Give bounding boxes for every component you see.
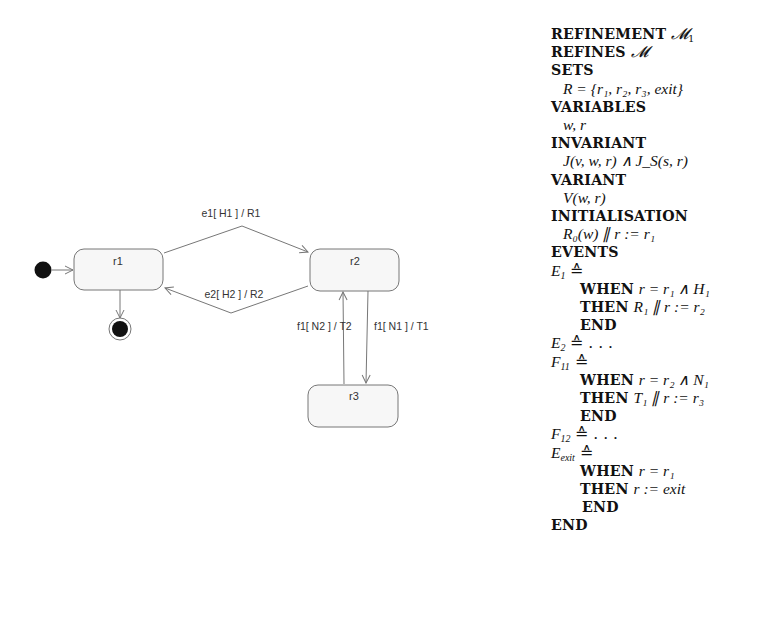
guard: r = r₁: [639, 462, 675, 479]
guard: r = r₁ ∧ H₁: [639, 280, 710, 297]
event-e1-then: THEN R₁ ∥ r := r₂: [551, 298, 776, 316]
initialisation-value: R₀(w) ∥ r := r₁: [551, 225, 776, 243]
transition-f1-n1-label: f1[ N1 ] / T1: [374, 320, 429, 332]
state-r1: r1: [74, 249, 163, 290]
event-def-symbol: ≙: [575, 353, 588, 371]
transition-e2-label: e2[ H2 ] / R2: [205, 288, 264, 300]
state-r2-label: r2: [350, 255, 360, 267]
end-keyword: END: [580, 408, 617, 424]
transition-e1: [164, 226, 308, 253]
invariant-keyword: INVARIANT: [551, 135, 646, 151]
event-def-symbol: ≙ . . .: [570, 334, 613, 352]
guard: r = r₂ ∧ N₁: [639, 371, 709, 388]
final-node: [109, 318, 131, 340]
event-def-symbol: ≙ . . .: [575, 425, 618, 443]
event-def-symbol: ≙: [580, 444, 593, 462]
invariant-heading: INVARIANT: [551, 134, 776, 152]
when-keyword: WHEN: [580, 463, 634, 479]
event-exit-end: END: [551, 498, 776, 516]
events-keyword: EVENTS: [551, 244, 619, 260]
action: T₁ ∥ r := r₃: [633, 389, 704, 406]
then-keyword: THEN: [580, 299, 629, 315]
refinement-subscript: 1: [688, 33, 694, 44]
sets-heading: SETS: [551, 61, 776, 79]
when-keyword: WHEN: [580, 281, 634, 297]
refines-keyword: REFINES: [551, 44, 626, 60]
sets-keyword: SETS: [551, 62, 594, 78]
state-r1-label: r1: [113, 255, 123, 267]
variables-heading: VARIABLES: [551, 98, 776, 116]
refines-name: 𝓜: [631, 43, 648, 60]
event-b-refinement-spec: REFINEMENT 𝓜1 REFINES 𝓜 SETS R = {r₁, r₂…: [551, 25, 776, 535]
event-e1-when: WHEN r = r₁ ∧ H₁: [551, 280, 776, 298]
invariant-value: J(v, w, r) ∧ J_S(s, r): [551, 152, 776, 170]
event-f11-when: WHEN r = r₂ ∧ N₁: [551, 371, 776, 389]
event-f11-then: THEN T₁ ∥ r := r₃: [551, 389, 776, 407]
action: R₁ ∥ r := r₂: [633, 298, 704, 315]
event-exit-when: WHEN r = r₁: [551, 462, 776, 480]
initial-node: [35, 262, 52, 279]
state-r2: r2: [310, 249, 399, 291]
refines-line: REFINES 𝓜: [551, 43, 776, 61]
end-keyword: END: [551, 517, 588, 533]
action: r := exit: [633, 480, 685, 497]
event-e1-end: END: [551, 316, 776, 334]
end-keyword: END: [582, 499, 619, 515]
then-keyword: THEN: [580, 481, 629, 497]
event-subscript: 1: [560, 270, 565, 281]
state-machine-diagram: r1 r2 r3 e1[ H1 ] / R1 e2[ H2 ] / R2 f1[…: [0, 0, 470, 641]
event-f12-header: F12 ≙ . . .: [551, 425, 776, 443]
refinement-line: REFINEMENT 𝓜1: [551, 25, 776, 43]
variables-keyword: VARIABLES: [551, 99, 646, 115]
event-e1-header: E1 ≙: [551, 262, 776, 280]
event-f11-header: F11 ≙: [551, 353, 776, 371]
events-heading: EVENTS: [551, 243, 776, 261]
transition-f1-n1: [366, 291, 368, 383]
variant-keyword: VARIANT: [551, 172, 626, 188]
then-keyword: THEN: [580, 390, 629, 406]
transition-e1-label: e1[ H1 ] / R1: [202, 207, 261, 219]
transition-f1-n2-label: f1[ N2 ] / T2: [297, 320, 352, 332]
when-keyword: WHEN: [580, 372, 634, 388]
variant-heading: VARIANT: [551, 171, 776, 189]
event-exit-header: Eexit ≙: [551, 444, 776, 462]
state-r3: r3: [308, 385, 398, 427]
event-exit-then: THEN r := exit: [551, 480, 776, 498]
state-r3-label: r3: [349, 390, 359, 402]
event-subscript: 12: [560, 433, 570, 444]
initialisation-heading: INITIALISATION: [551, 207, 776, 225]
transition-f1-n2: [343, 292, 344, 384]
event-subscript: 11: [560, 361, 569, 372]
event-subscript: 2: [560, 342, 565, 353]
spec-end: END: [551, 516, 776, 534]
event-e2-header: E2 ≙ . . .: [551, 334, 776, 352]
initialisation-keyword: INITIALISATION: [551, 208, 688, 224]
end-keyword: END: [580, 317, 617, 333]
event-f11-end: END: [551, 407, 776, 425]
sets-value: R = {r₁, r₂, r₃, exit}: [551, 80, 776, 98]
variant-value: V(w, r): [551, 189, 776, 207]
event-subscript: exit: [560, 452, 574, 463]
refinement-name: 𝓜: [671, 25, 688, 42]
refinement-keyword: REFINEMENT: [551, 26, 666, 42]
variables-value: w, r: [551, 116, 776, 134]
event-def-symbol: ≙: [570, 262, 583, 280]
